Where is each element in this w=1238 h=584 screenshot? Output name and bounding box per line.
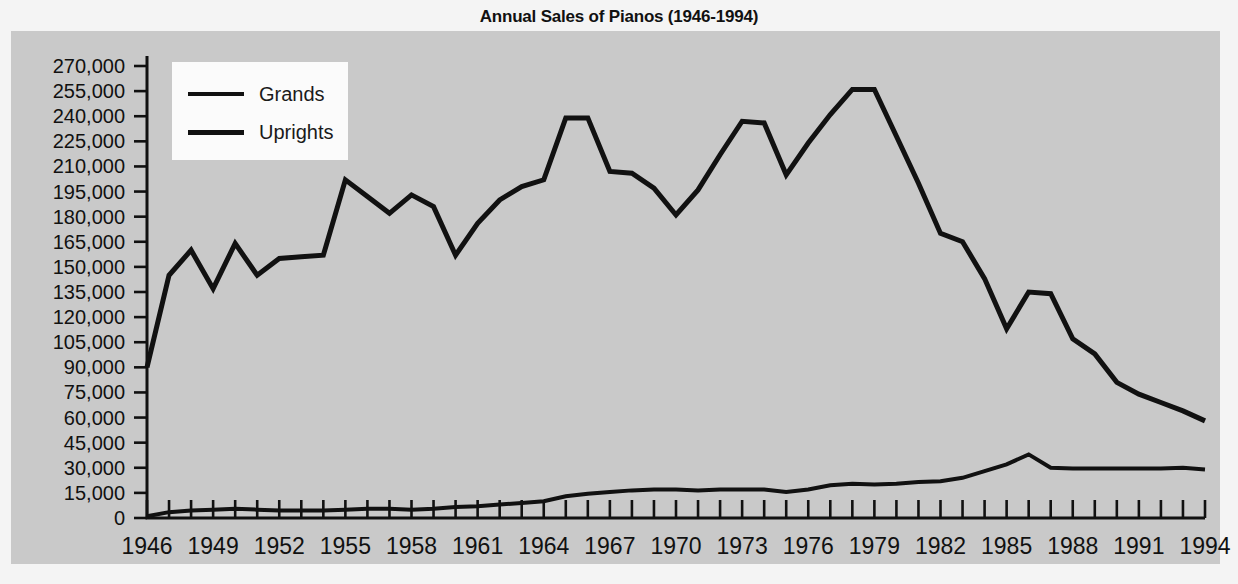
- y-axis-tick-label: 45,000: [64, 432, 125, 454]
- x-axis-tick-label: 1946: [121, 533, 172, 559]
- y-axis-tick-label: 90,000: [64, 356, 125, 378]
- y-axis-tick-label: 180,000: [53, 206, 125, 228]
- chart-legend: Grands Uprights: [172, 62, 348, 160]
- legend-item-uprights: Uprights: [188, 113, 348, 151]
- x-axis-tick-label: 1955: [320, 533, 371, 559]
- legend-label-uprights: Uprights: [259, 121, 333, 144]
- y-axis-tick-label: 135,000: [53, 281, 125, 303]
- x-axis-tick-label: 1991: [1113, 533, 1164, 559]
- figure-canvas: Annual Sales of Pianos (1946-1994) 015,0…: [0, 0, 1238, 584]
- y-axis-tick-label: 15,000: [64, 482, 125, 504]
- x-axis-tick-label: 1994: [1179, 533, 1230, 559]
- y-axis-tick-label: 270,000: [53, 55, 125, 77]
- x-axis-tick-label: 1982: [915, 533, 966, 559]
- y-axis-tick-label: 150,000: [53, 256, 125, 278]
- x-axis-tick-label: 1976: [783, 533, 834, 559]
- legend-label-grands: Grands: [259, 83, 325, 106]
- y-axis-tick-label: 105,000: [53, 331, 125, 353]
- y-axis-tick-label: 195,000: [53, 181, 125, 203]
- y-axis-tick-label: 240,000: [53, 105, 125, 127]
- x-axis-tick-label: 1952: [254, 533, 305, 559]
- y-axis-tick-label: 60,000: [64, 407, 125, 429]
- legend-swatch-grands-icon: [188, 92, 244, 96]
- x-axis-tick-label: 1979: [849, 533, 900, 559]
- y-axis-tick-label: 75,000: [64, 381, 125, 403]
- y-axis-tick-label: 225,000: [53, 130, 125, 152]
- x-axis-tick-label: 1964: [518, 533, 569, 559]
- x-axis-tick-label: 1973: [717, 533, 768, 559]
- x-axis-tick-label: 1985: [981, 533, 1032, 559]
- x-axis-tick-label: 1961: [452, 533, 503, 559]
- legend-swatch-uprights-icon: [188, 130, 244, 135]
- y-axis-tick-label: 165,000: [53, 231, 125, 253]
- x-axis-tick-label: 1958: [386, 533, 437, 559]
- y-axis-tick-label: 255,000: [53, 80, 125, 102]
- x-axis-tick-label: 1970: [650, 533, 701, 559]
- x-axis-label-group: 1946194919521955195819611964196719701973…: [121, 533, 1230, 559]
- legend-item-grands: Grands: [188, 75, 348, 113]
- y-axis-tick-label: 120,000: [53, 306, 125, 328]
- y-axis-tick-label: 210,000: [53, 155, 125, 177]
- y-axis-tick-group: [134, 66, 147, 518]
- y-axis-label-group: 015,00030,00045,00060,00075,00090,000105…: [53, 55, 125, 529]
- x-axis-tick-label: 1967: [584, 533, 635, 559]
- x-axis-tick-label: 1949: [188, 533, 239, 559]
- x-axis-tick-label: 1988: [1047, 533, 1098, 559]
- y-axis-tick-label: 0: [114, 507, 125, 529]
- y-axis-tick-label: 30,000: [64, 457, 125, 479]
